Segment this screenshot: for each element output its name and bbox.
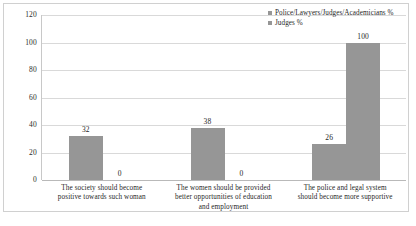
bars-layer: 32038026100 <box>42 15 406 180</box>
legend-swatch-icon <box>268 11 272 15</box>
y-axis-tick-label: 100 <box>3 39 37 47</box>
legend-item[interactable]: Judges % <box>268 19 410 28</box>
x-axis-category-label: The society should becomepositive toward… <box>41 184 163 203</box>
y-axis-tick-label: 60 <box>3 94 37 102</box>
bar-value-label: 0 <box>103 170 137 178</box>
legend-swatch-icon <box>268 21 272 25</box>
legend-label: Judges % <box>275 19 303 28</box>
bar-value-label: 38 <box>191 118 225 126</box>
y-axis-tick-label: 80 <box>3 66 37 74</box>
gridline <box>42 180 406 181</box>
bar <box>69 136 103 180</box>
x-axis-category-label: The women should be providedbetter oppor… <box>163 184 285 212</box>
legend-item[interactable]: Police/Lawyers/Judges/Academicians % <box>268 9 410 18</box>
bar <box>191 128 225 180</box>
chart-container: 020406080100120 32038026100 The society … <box>3 3 409 212</box>
y-axis-tick-label: 120 <box>3 11 37 19</box>
y-axis: 020406080100120 <box>4 15 37 180</box>
y-axis-tick-label: 40 <box>3 121 37 129</box>
bar <box>312 144 346 180</box>
legend-label: Police/Lawyers/Judges/Academicians % <box>275 9 394 18</box>
bar-value-label: 32 <box>69 126 103 134</box>
bar-value-label: 0 <box>225 170 259 178</box>
chart-legend: Police/Lawyers/Judges/Academicians %Judg… <box>268 9 410 29</box>
bar-value-label: 100 <box>346 33 380 41</box>
bar <box>346 43 380 181</box>
x-axis-labels: The society should becomepositive toward… <box>41 184 406 214</box>
bar-value-label: 26 <box>312 134 346 142</box>
y-axis-tick-label: 20 <box>3 149 37 157</box>
y-axis-tick-label: 0 <box>3 176 37 184</box>
x-axis-category-label: The police and legal systemshould become… <box>284 184 406 203</box>
plot-area: 32038026100 <box>41 15 406 180</box>
